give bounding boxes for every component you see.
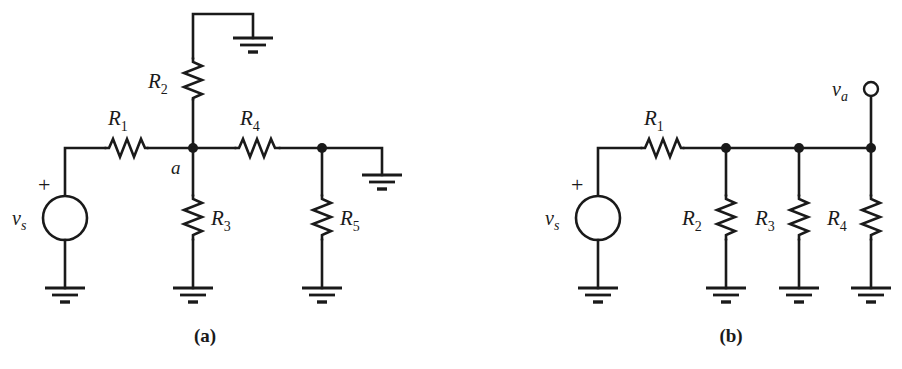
ground-symbol-b-source — [578, 288, 618, 302]
caption-b: (b) — [719, 325, 742, 347]
label-a-R1: R1 — [107, 106, 128, 134]
wire-a-right-to-ground — [322, 148, 382, 175]
wire-b-source-top — [598, 148, 641, 196]
resistor-b-R4 — [862, 195, 880, 240]
wire-r2-to-top-ground — [193, 14, 253, 58]
label-b-R2: R2 — [681, 206, 702, 234]
voltage-source-b — [576, 196, 620, 240]
label-a-R4: R4 — [239, 106, 260, 134]
resistor-a-R5 — [313, 195, 331, 240]
resistor-b-R3 — [790, 195, 808, 240]
ground-symbol-a-source — [45, 288, 85, 302]
wire-a-source-top — [65, 148, 105, 196]
ground-symbol-b-r3 — [779, 288, 819, 302]
label-a-R2: R2 — [147, 69, 168, 97]
circuit-diagram-svg: R2 + vs R1 a R4 — [0, 0, 902, 369]
label-b-output-va: va — [832, 78, 848, 104]
resistor-b-R1 — [641, 139, 684, 157]
figure-canvas: R2 + vs R1 a R4 — [0, 0, 902, 369]
resistor-a-R4 — [235, 139, 280, 157]
output-terminal-circle-icon — [864, 82, 878, 96]
label-b-R4: R4 — [826, 206, 847, 234]
label-a-node: a — [171, 157, 181, 178]
label-a-R5: R5 — [339, 206, 360, 234]
ground-symbol-a-r3 — [173, 288, 213, 302]
voltage-source-a — [43, 196, 87, 240]
ground-symbol-b-r4 — [851, 288, 891, 302]
ground-symbol-b-r2 — [706, 288, 746, 302]
caption-a: (a) — [194, 325, 216, 347]
resistor-b-R2 — [717, 195, 735, 240]
label-a-R3: R3 — [210, 206, 231, 234]
ground-symbol-a-r5 — [302, 288, 342, 302]
label-b-R3: R3 — [754, 206, 775, 234]
circuit-a: R2 + vs R1 a R4 — [12, 14, 402, 347]
label-a-source-vs: vs — [12, 207, 27, 233]
ground-symbol-a-top — [233, 38, 273, 52]
resistor-a-R3 — [184, 195, 202, 240]
resistor-a-R2 — [184, 58, 202, 148]
ground-symbol-a-right — [362, 175, 402, 189]
resistor-a-R1 — [105, 139, 193, 157]
label-a-source-plus: + — [38, 172, 50, 197]
label-b-R1: R1 — [643, 106, 664, 134]
label-b-source-plus: + — [571, 172, 583, 197]
label-b-source-vs: vs — [545, 207, 560, 233]
circuit-b: + vs R1 va R2 — [545, 78, 891, 347]
